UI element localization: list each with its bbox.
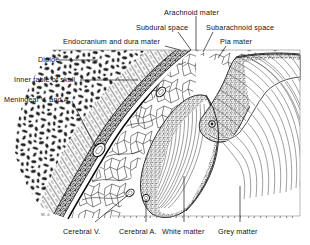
- anatomy-figure: Arachnoid mater Subdural space Subarachn…: [0, 0, 310, 245]
- label-subdural-space: Subdural space: [136, 24, 188, 31]
- sulcal-vessel: [209, 121, 216, 128]
- label-grey-matter: Grey matter: [218, 228, 258, 235]
- label-cerebral-vein: Cerebral V.: [63, 228, 100, 235]
- label-white-matter: White matter: [162, 228, 205, 235]
- label-inner-table-of-skull: Inner table of skull: [14, 76, 75, 83]
- label-subarachnoid-space: Subarachnoid space: [206, 24, 274, 31]
- label-cerebral-artery: Cerebral A.: [119, 228, 157, 235]
- label-diploe: Diploë: [38, 56, 59, 63]
- label-arachnoid-mater: Arachnoid mater: [164, 9, 219, 16]
- artist-signature: M. d.: [41, 212, 51, 217]
- label-pia-mater: Pia mater: [220, 38, 252, 45]
- label-meningeal-vessels: Meningeal V. and A.: [4, 96, 71, 103]
- label-endocranium-and-dura-mater: Endocranium and dura mater: [63, 38, 160, 45]
